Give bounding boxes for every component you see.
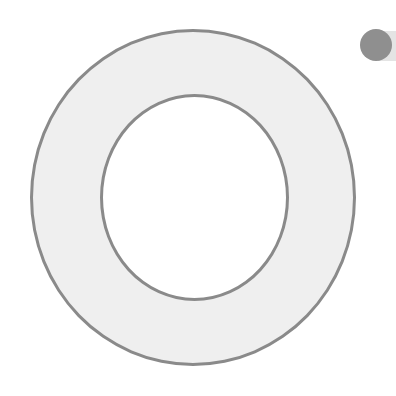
canvas: [0, 0, 396, 396]
gray-dot-icon[interactable]: [360, 29, 392, 61]
ring-hole: [100, 94, 289, 301]
